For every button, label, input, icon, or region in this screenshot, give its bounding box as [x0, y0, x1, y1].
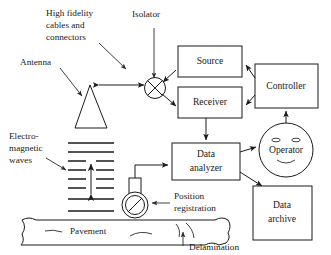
- gpr-system-diagram: High fidelity cables and connectors Isol…: [0, 0, 331, 255]
- annotation-em-waves-line3: waves: [9, 155, 32, 165]
- operator-label: Operator: [269, 144, 304, 155]
- annotation-high-fidelity-line1: High fidelity: [46, 8, 94, 18]
- annotation-position-registration-line1: Position: [174, 191, 205, 201]
- label-pavement: Pavement: [70, 226, 107, 236]
- annotation-delamination: Delamination: [189, 242, 239, 252]
- box-controller-label: Controller: [266, 80, 306, 91]
- box-data-analyzer-label-line1: Data: [197, 148, 216, 159]
- annotation-high-fidelity-line2: cables and: [46, 20, 85, 30]
- box-data-archive-label-line1: Data: [273, 199, 292, 210]
- box-receiver-label: Receiver: [193, 96, 228, 107]
- annotation-em-waves-line1: Electro-: [9, 131, 39, 141]
- box-data-analyzer-label-line2: analyzer: [190, 162, 223, 173]
- diagram-text-layer: High fidelity cables and connectors Isol…: [0, 0, 331, 255]
- annotation-antenna: Antenna: [20, 57, 51, 67]
- annotation-position-registration-line2: registration: [174, 203, 216, 213]
- box-data-archive-label-line2: archive: [268, 213, 296, 224]
- annotation-high-fidelity-line3: connectors: [46, 32, 86, 42]
- annotation-em-waves-line2: magnetic: [9, 143, 43, 153]
- box-source-label: Source: [197, 55, 224, 66]
- annotation-isolator: Isolator: [132, 9, 160, 19]
